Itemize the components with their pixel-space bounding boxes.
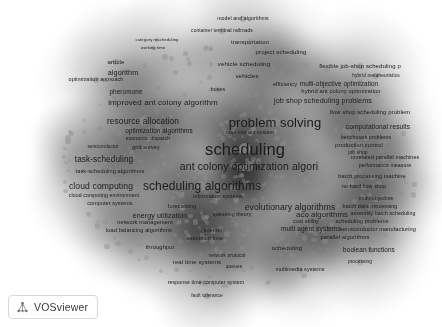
term-label[interactable]: problem solving: [229, 116, 322, 129]
item-dot: [186, 57, 190, 61]
item-dot: [280, 174, 285, 179]
term-label[interactable]: information systems: [193, 194, 243, 199]
term-label[interactable]: processing: [348, 260, 372, 265]
item-dot: [184, 115, 187, 118]
term-label[interactable]: scheduling: [272, 245, 303, 251]
item-dot: [234, 222, 239, 227]
term-label[interactable]: real time systems: [173, 259, 221, 265]
term-label[interactable]: economic dispatch: [126, 136, 171, 141]
item-dot: [272, 258, 276, 262]
item-dot: [240, 86, 243, 89]
item-dot: [63, 189, 68, 194]
term-label[interactable]: scheduling algorithms: [143, 180, 261, 192]
item-dot: [64, 161, 68, 165]
item-dot: [65, 135, 70, 140]
item-dot: [138, 81, 142, 85]
term-label[interactable]: response time computer system: [168, 280, 244, 285]
term-label[interactable]: computational results: [346, 124, 410, 131]
term-label[interactable]: network management: [117, 220, 173, 226]
term-label[interactable]: unrelated parallel machines: [351, 155, 420, 160]
term-label[interactable]: fault tolerance: [191, 294, 223, 299]
term-label[interactable]: cloud computing: [69, 182, 133, 191]
term-label[interactable]: article: [107, 59, 124, 65]
item-dot: [178, 250, 182, 254]
item-dot: [262, 257, 266, 261]
term-label[interactable]: multimedia systems: [275, 267, 324, 272]
term-label[interactable]: production control: [335, 143, 383, 149]
item-dot: [313, 232, 318, 237]
term-label[interactable]: semiconductor: [87, 145, 118, 150]
term-label[interactable]: execution time: [187, 236, 223, 241]
item-dot: [284, 188, 290, 194]
term-label[interactable]: hybrid metaheuristics: [352, 74, 399, 79]
term-label[interactable]: transportation: [231, 39, 269, 45]
item-dot: [265, 281, 269, 285]
term-label[interactable]: cloud computing environment: [69, 193, 139, 198]
item-dot: [297, 144, 302, 149]
item-dot: [334, 126, 338, 130]
item-dot: [224, 231, 230, 237]
term-label[interactable]: flexible job-shop scheduling p: [319, 63, 401, 69]
term-label[interactable]: forecasting: [168, 204, 196, 210]
term-label[interactable]: energy utilization: [133, 212, 187, 219]
term-label[interactable]: efficiency: [273, 82, 297, 88]
item-dot: [219, 122, 224, 127]
item-dot: [97, 126, 103, 132]
term-label[interactable]: vehicle scheduling: [218, 61, 270, 67]
term-label[interactable]: multi-objective optimization: [300, 81, 378, 87]
term-label[interactable]: assembly batch scheduling: [351, 211, 416, 216]
item-dot: [183, 92, 188, 97]
item-dot: [184, 230, 188, 234]
item-dot: [205, 215, 209, 219]
term-label[interactable]: load balancing algorithms: [106, 228, 172, 234]
term-label[interactable]: no-hard flow shop: [342, 184, 387, 189]
term-label[interactable]: semiconductor manufacturing: [340, 227, 416, 233]
item-dot: [303, 178, 307, 182]
term-label[interactable]: buses: [211, 87, 225, 92]
item-dot: [261, 184, 264, 187]
term-label[interactable]: task-scheduling algorithms: [76, 169, 145, 175]
term-label[interactable]: throughput: [146, 245, 175, 251]
term-label[interactable]: max-min ant system: [226, 130, 274, 135]
term-label[interactable]: performance measure: [359, 163, 412, 168]
term-label[interactable]: job shop scheduling problems: [274, 97, 372, 104]
item-dot: [205, 215, 209, 219]
term-label[interactable]: category rescheduling: [135, 38, 178, 42]
term-label[interactable]: network protocol: [209, 254, 246, 259]
item-dot: [291, 182, 295, 186]
term-label[interactable]: queueing theory: [213, 212, 252, 217]
term-label[interactable]: container terminal railroads: [191, 29, 253, 34]
term-label[interactable]: scheduling: [205, 141, 285, 158]
term-label[interactable]: ant colony optimization algori: [180, 161, 318, 172]
term-label[interactable]: boolean functions: [343, 247, 395, 253]
term-label[interactable]: hybrid ant colony optimization: [301, 89, 380, 95]
term-label[interactable]: working time: [141, 46, 166, 50]
term-label[interactable]: project scheduling: [256, 49, 307, 55]
item-dot: [181, 107, 186, 112]
term-label[interactable]: flow shop scheduling problem: [330, 110, 410, 116]
term-label[interactable]: optimization approach: [69, 77, 124, 82]
item-dot: [62, 155, 66, 159]
term-label[interactable]: multi agent systems: [281, 226, 341, 233]
term-label[interactable]: resource allocation: [107, 117, 179, 125]
term-label[interactable]: pheromone: [109, 89, 142, 95]
term-label[interactable]: model and algorithms: [217, 16, 269, 21]
term-label[interactable]: task-scheduling: [75, 156, 133, 164]
term-label[interactable]: optimization algorithms: [125, 128, 193, 134]
vosviewer-logo-badge[interactable]: VOSviewer: [8, 295, 98, 319]
term-label[interactable]: vehicles: [235, 73, 258, 79]
term-label[interactable]: batch data processing: [343, 204, 398, 209]
term-label[interactable]: queues: [226, 265, 242, 270]
term-label[interactable]: batch processing machine: [338, 174, 405, 180]
term-label[interactable]: scheduling problems: [335, 219, 388, 225]
term-label[interactable]: improved ant colony algorithm: [108, 99, 218, 107]
item-dot: [205, 45, 208, 48]
item-dot: [63, 180, 67, 184]
term-label[interactable]: internet: [204, 228, 222, 233]
term-label[interactable]: multi-objective: [359, 196, 394, 201]
term-label[interactable]: benchmark problems: [341, 135, 391, 140]
term-label[interactable]: parallel algorithms: [321, 235, 370, 241]
vosviewer-density-map[interactable]: model and algorithmscontainer terminal r…: [0, 0, 442, 327]
term-label[interactable]: grid survey: [132, 145, 159, 150]
term-label[interactable]: computer systems: [87, 201, 132, 206]
